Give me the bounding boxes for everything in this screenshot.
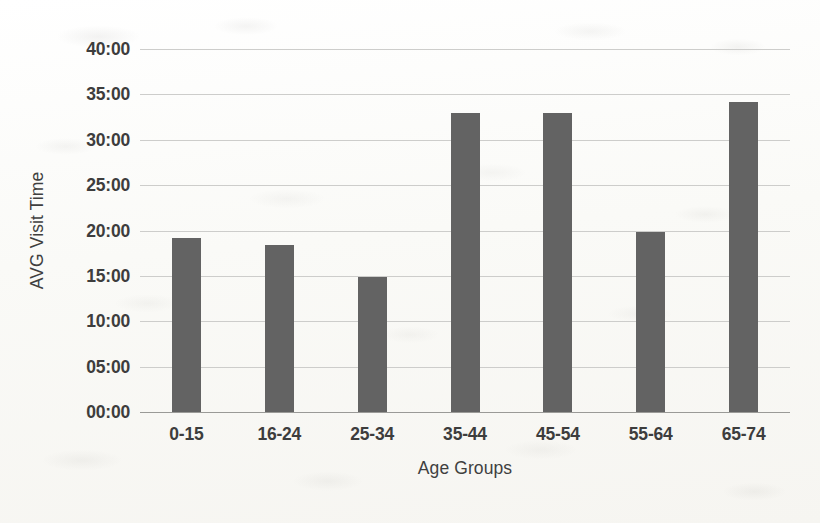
x-axis-tick-label: 16-24: [234, 424, 324, 445]
x-axis-tick-label: 0-15: [141, 424, 231, 445]
y-axis-tick-label: 15:00: [52, 265, 130, 286]
x-axis-tick-label: 55-64: [606, 424, 696, 445]
x-axis-tick-label: 65-74: [699, 424, 789, 445]
bar: [729, 102, 758, 412]
x-axis-tick-label: 45-54: [513, 424, 603, 445]
bar-chart-figure: AVG Visit Time 40:0035:0030:0025:0020:00…: [0, 0, 820, 523]
x-axis-title: Age Groups: [140, 458, 790, 479]
gridline: [140, 94, 790, 95]
x-axis-tick-label: 35-44: [420, 424, 510, 445]
y-axis-tick-label: 20:00: [52, 220, 130, 241]
y-axis-tick-label: 05:00: [52, 356, 130, 377]
y-axis-tick-label: 40:00: [52, 39, 130, 60]
bar: [358, 277, 387, 412]
bar: [543, 113, 572, 412]
x-axis-baseline: [140, 412, 790, 413]
bar: [265, 245, 294, 412]
y-axis-tick-label: 25:00: [52, 175, 130, 196]
y-axis-tick-labels: 40:0035:0030:0025:0020:0015:0010:0005:00…: [52, 0, 130, 523]
bar: [451, 113, 480, 412]
y-axis-title: AVG Visit Time: [24, 49, 50, 412]
x-axis-tick-labels: 0-1516-2425-3435-4445-5455-6465-74: [140, 424, 790, 452]
y-axis-tick-label: 10:00: [52, 311, 130, 332]
bar: [172, 238, 201, 412]
bar: [636, 232, 665, 412]
plot-area: [140, 49, 790, 412]
y-axis-tick-label: 35:00: [52, 84, 130, 105]
y-axis-tick-label: 00:00: [52, 402, 130, 423]
y-axis-tick-label: 30:00: [52, 129, 130, 150]
x-axis-tick-label: 25-34: [327, 424, 417, 445]
gridline: [140, 49, 790, 50]
